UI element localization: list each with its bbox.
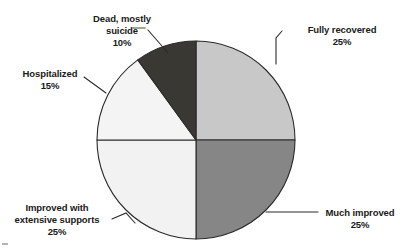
pie-value-fully-recovered: 25% [333, 36, 352, 47]
pie-chart-figure: Dead, mostly suicide 10% Fully recovered… [0, 0, 407, 252]
pie-chart-svg: Dead, mostly suicide 10% Fully recovered… [0, 0, 407, 252]
pie-value-much-improved: 25% [351, 219, 370, 230]
pie-slice-much-improved[interactable] [196, 140, 295, 239]
leader-line-fully-recovered [276, 31, 282, 64]
pie-label-fully-recovered: Fully recovered 25% [308, 24, 377, 47]
leader-line-hospitalized [84, 77, 106, 93]
pie-label-improved-with-extensive-supports-line2: extensive supports [15, 214, 100, 225]
pie-label-hospitalized: Hospitalized 15% [23, 68, 78, 91]
pie-value-hospitalized: 15% [41, 80, 60, 91]
pie-value-improved-with-extensive-supports: 25% [48, 226, 67, 237]
pie-label-improved-with-extensive-supports-line1: Improved with [25, 202, 88, 213]
pie-label-fully-recovered-line1: Fully recovered [308, 24, 377, 35]
pie-slices-group [97, 41, 295, 239]
pie-label-much-improved-line1: Much improved [326, 207, 395, 218]
pie-label-much-improved: Much improved 25% [326, 207, 395, 230]
pie-value-dead-mostly-suicide: 10% [113, 37, 132, 48]
pie-label-dead-mostly-suicide: Dead, mostly suicide 10% [93, 13, 152, 48]
pie-label-improved-with-extensive-supports: Improved with extensive supports 25% [15, 202, 100, 237]
pie-label-dead-mostly-suicide-line2: suicide [106, 25, 138, 36]
pie-slice-fully-recovered[interactable] [196, 41, 295, 140]
pie-label-hospitalized-line1: Hospitalized [23, 68, 78, 79]
pie-label-dead-mostly-suicide-line1: Dead, mostly [93, 13, 152, 24]
pie-slice-improved-with-extensive-supports[interactable] [97, 140, 196, 239]
